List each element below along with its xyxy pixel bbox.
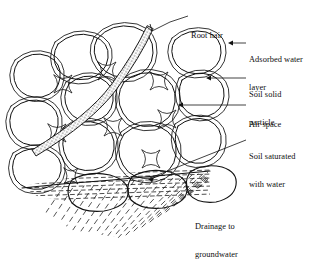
arrowhead-adsorbed-water: [228, 41, 233, 46]
soil-particle: [186, 166, 236, 203]
label-air-space-line1: Air space: [249, 120, 281, 129]
label-soil-saturated-line2: with water: [249, 180, 296, 189]
label-drainage-line1: Drainage to: [195, 222, 238, 231]
root-hair: [32, 26, 153, 156]
drainage-zone-hatch: [30, 172, 212, 247]
label-adsorbed-water-line1: Adsorbed water: [249, 55, 303, 64]
leader-root-hair: [152, 16, 188, 31]
label-drainage-line2: groundwater: [195, 250, 238, 259]
label-drainage-to-groundwater: Drainage to groundwater: [195, 203, 238, 259]
diagram-canvas: Root hair Adsorbed water layer Soil soli…: [0, 0, 324, 259]
water-table-line: [22, 171, 210, 188]
label-soil-saturated-with-water: Soil saturated with water: [249, 133, 296, 208]
label-root-hair: Root hair: [191, 13, 223, 60]
label-root-hair-line1: Root hair: [191, 31, 223, 40]
label-soil-saturated-line1: Soil saturated: [249, 152, 296, 161]
label-soil-particle-line1: Soil solid: [249, 90, 281, 99]
